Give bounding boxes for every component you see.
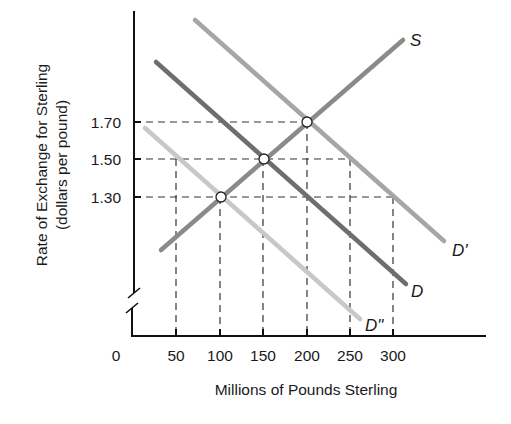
y-ticks xyxy=(134,122,141,197)
x-origin-label: 0 xyxy=(112,347,121,364)
x-ticks xyxy=(176,329,393,336)
y-tick-label-170: 1.70 xyxy=(91,114,122,131)
exchange-rate-chart: 1.70 1.50 1.30 0 50 100 150 200 250 300 … xyxy=(0,0,511,424)
curve-d-double-prime xyxy=(145,128,360,319)
y-tick-label-130: 1.30 xyxy=(91,189,122,206)
x-tick-label-50: 50 xyxy=(167,347,185,364)
curve-label-d-prime: D' xyxy=(452,241,468,260)
curve-label-d-double-prime: D" xyxy=(365,316,384,335)
x-tick-label-200: 200 xyxy=(294,347,320,364)
y-tick-label-150: 1.50 xyxy=(91,151,122,168)
equilibrium-point-200-170 xyxy=(302,117,312,127)
curve-label-d: D xyxy=(411,282,423,301)
x-tick-label-250: 250 xyxy=(337,347,363,364)
y-axis-title-line2: (dollars per pound) xyxy=(53,100,70,230)
curve-s xyxy=(161,40,403,250)
equilibrium-point-150-150 xyxy=(259,154,269,164)
curve-label-s: S xyxy=(410,31,422,50)
y-axis xyxy=(126,11,140,336)
x-tick-label-150: 150 xyxy=(250,347,276,364)
x-tick-label-100: 100 xyxy=(207,347,233,364)
x-tick-label-300: 300 xyxy=(380,347,406,364)
equilibrium-point-100-130 xyxy=(216,192,226,202)
x-axis-title: Millions of Pounds Sterling xyxy=(215,381,398,398)
y-axis-title-line1: Rate of Exchange for Sterling xyxy=(33,64,50,266)
